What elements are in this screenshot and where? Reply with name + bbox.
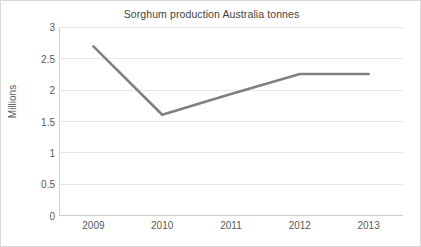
y-tick-label: 0.5 xyxy=(21,179,55,190)
x-tick-label: 2012 xyxy=(270,220,330,231)
plot-area xyxy=(59,27,403,215)
y-tick-label: 1.5 xyxy=(21,116,55,127)
x-axis-tick-labels: 2009 2010 2011 2012 2013 xyxy=(59,220,403,242)
series-line xyxy=(59,27,403,215)
y-tick-label: 2 xyxy=(21,84,55,95)
x-tick-label: 2009 xyxy=(63,220,123,231)
y-axis-title: Millions xyxy=(7,57,18,147)
y-tick-label: 0 xyxy=(21,211,55,222)
y-axis-tick-labels: 3 2.5 2 1.5 1 0.5 0 xyxy=(17,27,55,216)
chart-title: Sorghum production Australia tonnes xyxy=(1,8,421,20)
x-tick-label: 2010 xyxy=(132,220,192,231)
chart-container: Sorghum production Australia tonnes 3 2.… xyxy=(0,0,421,247)
x-tick-label: 2013 xyxy=(339,220,399,231)
y-tick-label: 3 xyxy=(21,22,55,33)
x-tick-label: 2011 xyxy=(201,220,261,231)
x-axis-line xyxy=(59,215,403,216)
y-tick-label: 1 xyxy=(21,148,55,159)
y-tick-label: 2.5 xyxy=(21,53,55,64)
